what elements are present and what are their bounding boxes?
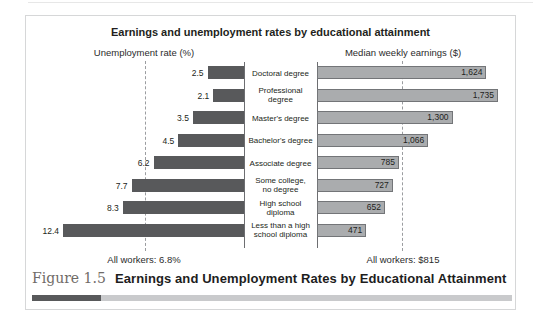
unemployment-value: 8.3 xyxy=(77,203,119,213)
earnings-value: 652 xyxy=(318,202,384,213)
unemployment-value: 2.5 xyxy=(162,68,204,78)
earnings-value: 1,066 xyxy=(318,135,427,146)
unemployment-bar xyxy=(154,156,245,169)
figure-caption-title: Earnings and Unemployment Rates by Educa… xyxy=(115,271,507,286)
earnings-value: 471 xyxy=(318,225,365,236)
unemployment-value: 4.5 xyxy=(132,136,174,146)
earnings-bar: 471 xyxy=(317,224,366,237)
all-workers-unemployment-refline xyxy=(145,61,146,251)
all-workers-unemployment-note: All workers: 6.8% xyxy=(44,254,244,265)
caption-rule-accent xyxy=(32,295,101,301)
all-workers-earnings-note: All workers: $815 xyxy=(303,254,503,265)
earnings-bar: 727 xyxy=(317,179,393,192)
earnings-value: 1,624 xyxy=(318,67,485,78)
unemployment-value: 12.4 xyxy=(17,226,59,236)
earnings-value: 785 xyxy=(318,157,398,168)
unemployment-bar xyxy=(178,134,244,147)
unemployment-bar xyxy=(123,201,244,214)
unemployment-value: 7.7 xyxy=(86,181,128,191)
unemployment-bar xyxy=(213,89,244,102)
figure-number: Figure 1.5 xyxy=(32,270,106,286)
earnings-bar: 1,624 xyxy=(317,66,486,79)
category-label: Master's degree xyxy=(244,113,317,122)
unemployment-value: 6.2 xyxy=(108,158,150,168)
unemployment-bar xyxy=(63,224,244,237)
category-label: Professional degree xyxy=(244,86,317,104)
unemployment-bar xyxy=(208,66,244,79)
earnings-bar: 652 xyxy=(317,201,385,214)
category-label: Associate degree xyxy=(244,158,317,167)
category-label: Bachelor's degree xyxy=(244,136,317,145)
unemployment-bar xyxy=(132,179,244,192)
earnings-bar: 1,300 xyxy=(317,111,453,124)
earnings-bar: 785 xyxy=(317,156,399,169)
page: Earnings and unemployment rates by educa… xyxy=(0,0,535,313)
caption-rule xyxy=(32,295,512,301)
unemployment-value: 2.1 xyxy=(167,91,209,101)
unemployment-bar xyxy=(193,111,244,124)
figure-box: Earnings and unemployment rates by educa… xyxy=(25,15,516,310)
category-label: Some college, no degree xyxy=(244,176,317,194)
category-label: High school diploma xyxy=(244,199,317,217)
category-label: Doctoral degree xyxy=(244,68,317,77)
unemployment-value: 3.5 xyxy=(147,113,189,123)
earnings-bar: 1,735 xyxy=(317,89,498,102)
top-hairline xyxy=(28,2,533,3)
chart-area: 2.5Doctoral degree1,6242.1Professional d… xyxy=(26,16,515,309)
earnings-value: 727 xyxy=(318,180,392,191)
category-label: Less than a high school diploma xyxy=(244,221,317,239)
earnings-bar: 1,066 xyxy=(317,134,428,147)
earnings-value: 1,300 xyxy=(318,112,452,123)
figure-caption: Figure 1.5 Earnings and Unemployment Rat… xyxy=(32,270,507,286)
earnings-value: 1,735 xyxy=(318,90,497,101)
